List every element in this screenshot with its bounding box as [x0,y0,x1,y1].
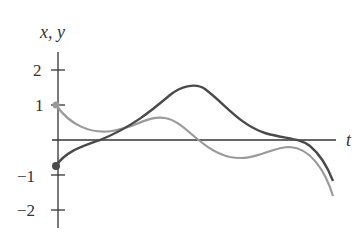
tick-label-neg2: −2 [17,202,35,219]
t-axis-label: t [346,131,351,149]
series-y-curve [56,105,333,196]
series-x-curve [56,86,333,181]
tick-label-2: 2 [33,62,42,79]
tick-label-neg1: −1 [17,168,35,185]
series-y-start-marker [53,102,60,109]
tick-label-1: 1 [35,97,44,114]
series-x-start-marker [52,162,60,170]
y-axis-label: x, y [40,23,65,41]
